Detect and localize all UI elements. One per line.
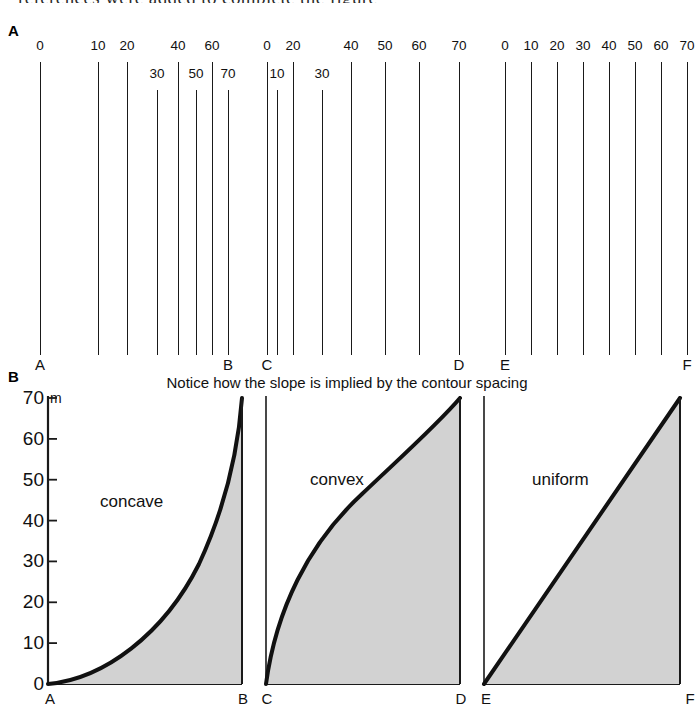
y-tick-0: 0 [33,673,44,695]
contour-endpoint-ab-start: A [35,356,45,373]
running-body-text: references were added to complete the fi… [18,0,678,3]
contour-label-cd-30: 30 [314,66,329,81]
contour-endpoint-ab-end: B [223,356,233,373]
contour-line-ab-20 [127,62,128,355]
profile-endpoint-ef-end: F [685,690,694,707]
contour-label-ab-20: 20 [119,38,134,53]
profile-endpoint-ab-start: A [45,690,55,707]
contour-line-ab-40 [178,62,179,355]
contour-label-ef-50: 50 [627,38,642,53]
contour-line-cd-60 [419,62,420,355]
contour-line-cd-0 [267,62,268,355]
y-tick-50: 50 [23,469,44,491]
y-axis-tick-labels: 706050403020100 [0,396,44,686]
contour-line-ef-50 [635,62,636,355]
contour-line-ab-60 [212,62,213,355]
contour-line-ef-0 [505,62,506,355]
contour-label-cd-70: 70 [451,38,466,53]
contour-label-ab-10: 10 [90,38,105,53]
contour-endpoint-ef-end: F [682,356,691,373]
contour-label-ab-30: 30 [149,66,164,81]
profiles-caption: Notice how the slope is implied by the c… [0,374,694,391]
contour-line-ef-20 [557,62,558,355]
contour-line-ab-30 [157,90,158,355]
profile-endpoint-ab-end: B [238,690,248,707]
contour-line-cd-10 [277,90,278,355]
contour-line-cd-30 [322,90,323,355]
profile-svg-uniform [480,396,694,692]
contour-line-ef-70 [687,62,688,355]
profile-svg-convex [262,396,470,692]
contour-label-ab-40: 40 [170,38,185,53]
contour-label-ab-60: 60 [204,38,219,53]
profile-chart-uniform: uniform [480,396,694,692]
y-tick-10: 10 [23,632,44,654]
profile-endpoint-cd-start: C [262,690,273,707]
contour-diagram-ef [0,30,694,355]
contour-label-ab-50: 50 [188,66,203,81]
profile-endpoint-ef-start: E [481,690,491,707]
contour-line-cd-70 [459,62,460,355]
contour-label-ab-0: 0 [36,38,44,53]
contour-label-ef-10: 10 [523,38,538,53]
contour-line-ef-10 [531,62,532,355]
y-tick-30: 30 [23,550,44,572]
contour-label-cd-50: 50 [377,38,392,53]
profile-chart-concave: concave [44,396,252,692]
contour-line-ef-40 [609,62,610,355]
y-tick-70: 70 [23,387,44,409]
contour-label-cd-20: 20 [285,38,300,53]
contour-label-ef-30: 30 [575,38,590,53]
contour-label-ef-20: 20 [549,38,564,53]
y-tick-40: 40 [23,510,44,532]
contour-line-cd-40 [351,62,352,355]
profile-chart-convex: convex [262,396,470,692]
y-tick-20: 20 [23,591,44,613]
contour-label-ef-60: 60 [653,38,668,53]
profile-endpoint-cd-end: D [456,690,467,707]
contour-label-ef-70: 70 [679,38,694,53]
contour-label-ef-0: 0 [501,38,509,53]
profile-label-convex: convex [310,470,364,490]
contour-line-ab-50 [196,90,197,355]
contour-label-cd-40: 40 [343,38,358,53]
contour-endpoint-ef-start: E [500,356,510,373]
contour-line-cd-50 [385,62,386,355]
y-tick-60: 60 [23,428,44,450]
contour-line-ab-0 [40,62,41,355]
contour-label-ef-40: 40 [601,38,616,53]
profile-svg-concave [44,396,252,692]
contour-endpoint-cd-end: D [454,356,465,373]
contour-line-ef-60 [661,62,662,355]
contour-endpoint-cd-start: C [262,356,273,373]
contour-line-ef-30 [583,62,584,355]
contour-label-cd-60: 60 [411,38,426,53]
contour-label-cd-10: 10 [269,66,284,81]
contour-label-ab-70: 70 [220,66,235,81]
profile-label-concave: concave [100,492,163,512]
contour-line-ab-70 [228,90,229,355]
contour-line-ab-10 [98,62,99,355]
contour-label-cd-0: 0 [263,38,271,53]
contour-line-cd-20 [293,62,294,355]
profile-label-uniform: uniform [532,470,589,490]
